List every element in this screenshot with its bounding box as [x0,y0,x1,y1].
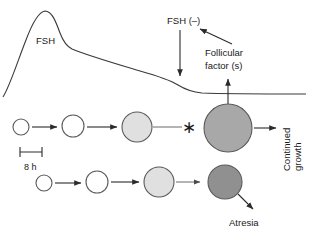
fsh-negative-label: FSH (–) [167,15,200,26]
fsh-curve-label: FSH [36,35,55,46]
scale-bar [20,147,42,157]
continued-growth-label: Continued growth [281,128,303,171]
atresia-follicle-final [208,165,242,199]
fsh-curve-line [3,11,306,97]
scale-bar-label: 8 h [24,162,37,172]
atresia-follicle-stage-3 [144,167,174,197]
follicle-row-continued-growth: ∗ Continued growth [13,104,303,171]
continued-growth-line2: growth [292,142,303,171]
follicle-stage-1 [13,119,29,135]
follicle-dominant [204,104,252,152]
follicle-stage-2 [62,115,84,137]
follicular-factor-label-line1: Follicular [205,47,243,58]
continued-growth-line1: Continued [281,128,292,171]
follicular-growth-figure: FSH FSH (–) Follicular factor (s) ∗ [0,0,310,231]
atresia-follicle-stage-1 [36,175,52,191]
fsh-curve-group [3,11,306,97]
follicle-stage-3 [122,112,152,142]
selection-asterisk: ∗ [182,118,196,137]
follicle-row-atresia [36,165,253,209]
atresia-follicle-stage-2 [86,171,108,193]
atresia-label: Atresia [229,217,259,228]
figure-canvas: FSH FSH (–) Follicular factor (s) ∗ [0,0,310,231]
follicular-factor-label-line2: factor (s) [205,60,242,71]
follicular-factor-arrow [200,29,232,44]
atresia-arrow [238,194,253,209]
